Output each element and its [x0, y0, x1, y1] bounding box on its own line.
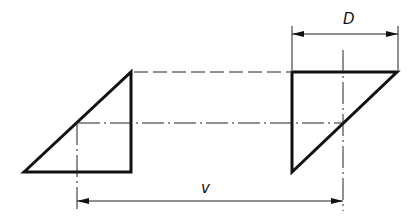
- d-label: D: [343, 10, 355, 28]
- v-label: v: [201, 179, 211, 197]
- right-triangle: [292, 72, 397, 172]
- projection-diagram: D v: [0, 0, 415, 221]
